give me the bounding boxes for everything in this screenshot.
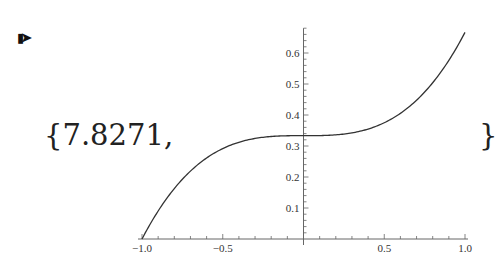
y-tick-label: 0.1 <box>286 202 300 214</box>
plot: −1.0−0.50.51.00.10.20.30.40.50.6 <box>0 0 501 267</box>
y-tick-label: 0.6 <box>286 47 300 59</box>
x-tick-label: 0.5 <box>377 242 391 254</box>
x-tick-label: 1.0 <box>458 242 472 254</box>
y-tick-label: 0.4 <box>286 109 300 121</box>
y-tick-label: 0.5 <box>286 78 300 90</box>
y-tick-label: 0.3 <box>286 140 300 152</box>
x-tick-label: −1.0 <box>132 242 152 254</box>
y-tick-label: 0.2 <box>286 171 300 183</box>
x-tick-label: −0.5 <box>213 242 233 254</box>
